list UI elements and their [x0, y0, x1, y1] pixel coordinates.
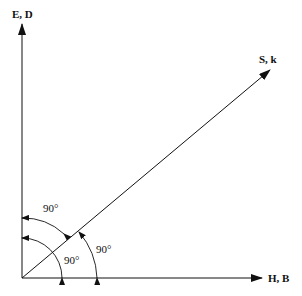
- s-k-label: S, k: [259, 53, 278, 65]
- angle-arc-e-s: [22, 218, 64, 234]
- angle-label-e-h: 90°: [64, 254, 79, 266]
- vector-diagram: E, D H, B S, k 90° 90° 90°: [0, 0, 302, 296]
- angle-label-s-h: 90°: [96, 243, 111, 255]
- h-b-label: H, B: [268, 272, 290, 284]
- s-k-vector-arrow: [22, 70, 270, 278]
- angle-arc-e-h: [22, 238, 62, 278]
- e-d-label: E, D: [12, 8, 33, 20]
- angle-arc-s-h: [79, 232, 97, 278]
- angle-label-e-s: 90°: [43, 202, 58, 214]
